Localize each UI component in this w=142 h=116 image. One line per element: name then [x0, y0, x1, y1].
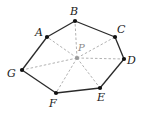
diagram-canvas: ABCDEFGP	[0, 0, 142, 116]
edge-AB	[47, 21, 75, 37]
spoke-P-A	[47, 37, 77, 58]
label-C: C	[117, 23, 126, 36]
spoke-P-D	[77, 58, 124, 59]
spoke-P-F	[56, 58, 77, 93]
edge-GA	[22, 37, 47, 70]
vertex-D	[122, 57, 126, 61]
label-G: G	[7, 67, 16, 80]
label-A: A	[34, 26, 43, 39]
edge-EF	[56, 88, 100, 93]
label-B: B	[69, 5, 78, 18]
vertex-F	[54, 91, 58, 95]
label-F: F	[48, 97, 57, 110]
label-E: E	[96, 91, 105, 104]
edge-CD	[115, 37, 124, 59]
edge-BC	[75, 21, 115, 37]
label-D: D	[126, 54, 136, 67]
label-P: P	[77, 42, 85, 53]
spoke-P-E	[77, 58, 100, 88]
vertex-E	[98, 86, 102, 90]
edge-FG	[22, 70, 56, 93]
spoke-P-B	[75, 21, 77, 58]
heptagon-diagram: ABCDEFGP	[0, 0, 142, 116]
vertex-B	[73, 19, 77, 23]
vertex-A	[45, 35, 49, 39]
vertex-labels: ABCDEFGP	[7, 5, 136, 110]
edge-DE	[100, 59, 124, 88]
center-point-P	[75, 56, 79, 60]
vertex-G	[20, 68, 24, 72]
